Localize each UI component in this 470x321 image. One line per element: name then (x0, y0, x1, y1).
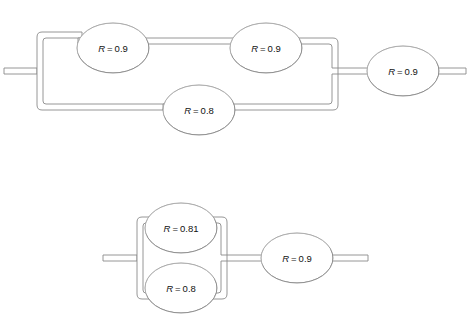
parallel-bus-right-lower (232, 74, 338, 110)
diagram-bottom: R=0.81 R=0.8 (103, 199, 368, 317)
node-label-value: 0.81 (180, 222, 199, 233)
node-label-symbol: R (282, 252, 289, 263)
node-label: R=0.81 (164, 222, 199, 233)
node-label-value: 0.9 (299, 252, 312, 263)
node-label-equals: = (260, 42, 266, 53)
node-parallel-upper[interactable]: R=0.81 (141, 199, 221, 257)
node-label-equals: = (397, 65, 403, 76)
diagram-canvas: R=0.9 R=0.9 (0, 0, 470, 321)
link-top-1-2 (144, 38, 235, 44)
node-label-equals: = (193, 104, 199, 115)
input-stub-left (103, 255, 137, 261)
rbd-illustration: R=0.9 R=0.9 (0, 0, 470, 321)
node-label-value: 0.8 (183, 282, 196, 293)
node-bottom-mid[interactable]: R=0.8 (159, 81, 239, 139)
node-series-out[interactable]: R=0.9 (363, 42, 443, 100)
node-label-symbol: R (184, 104, 191, 115)
node-label-equals: = (175, 282, 181, 293)
node-parallel-lower[interactable]: R=0.8 (141, 259, 221, 317)
node-top-middle[interactable]: R=0.9 (226, 19, 306, 77)
node-top-left[interactable]: R=0.9 (73, 19, 153, 77)
node-label-value: 0.9 (115, 42, 128, 53)
link-join-to-series (227, 255, 266, 261)
node-label-symbol: R (98, 42, 105, 53)
node-label-equals: = (291, 252, 297, 263)
node-label-value: 0.8 (201, 104, 214, 115)
node-label-symbol: R (166, 282, 173, 293)
node-label-equals: = (172, 222, 178, 233)
input-stub-left (4, 68, 37, 74)
node-label-value: 0.9 (268, 42, 281, 53)
node-label-symbol: R (251, 42, 258, 53)
diagram-top: R=0.9 R=0.9 (4, 19, 466, 139)
output-stub-right (328, 255, 368, 261)
node-label-equals: = (107, 42, 113, 53)
parallel-bus-right (297, 38, 338, 68)
node-label-value: 0.9 (405, 65, 418, 76)
node-label-symbol: R (164, 222, 171, 233)
node-label-symbol: R (388, 65, 395, 76)
node-series-out[interactable]: R=0.9 (257, 229, 337, 287)
